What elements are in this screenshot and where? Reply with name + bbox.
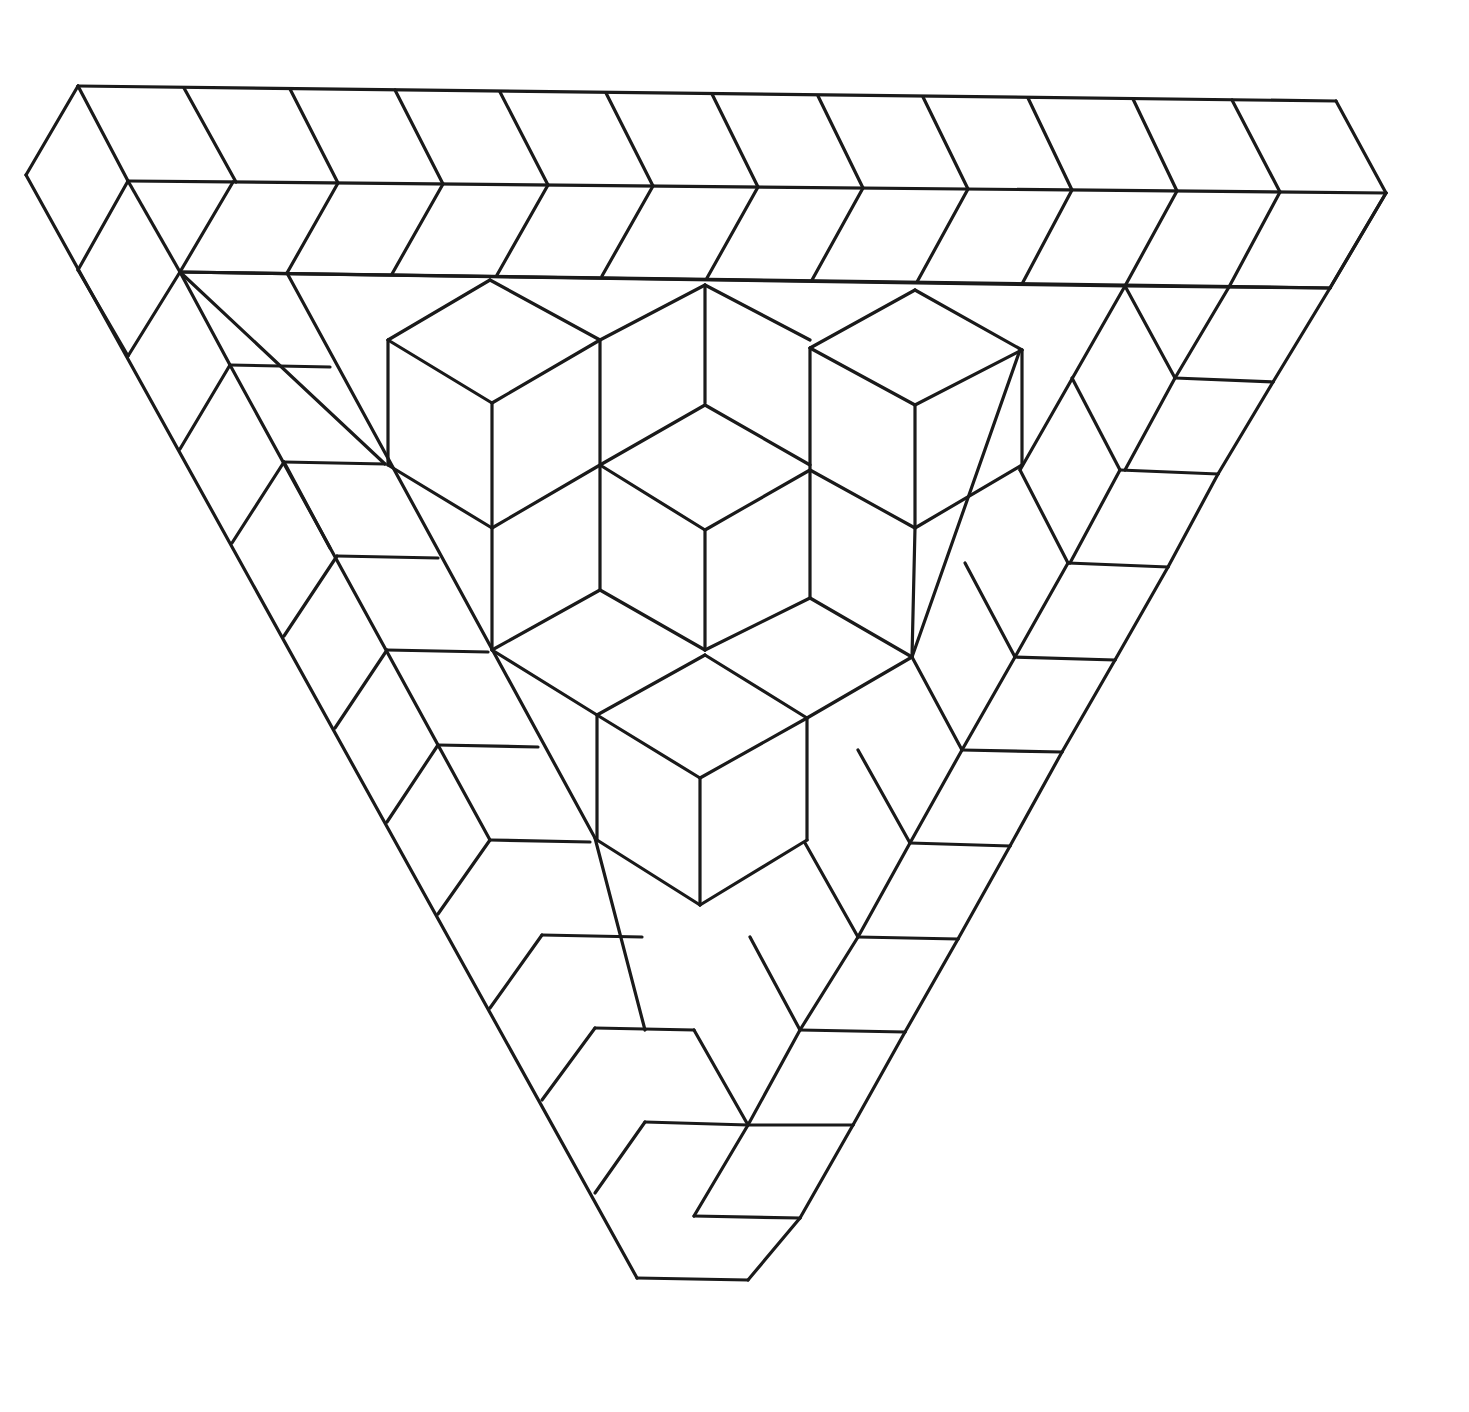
edge-line: [915, 465, 1022, 528]
edge-line: [700, 718, 807, 778]
edge-line: [1120, 470, 1218, 474]
edge-line: [78, 86, 1336, 101]
edge-line: [1020, 286, 1125, 470]
edge-line: [500, 92, 548, 185]
edge-line: [388, 465, 492, 528]
edge-line: [128, 272, 180, 356]
edge-line: [492, 650, 597, 715]
edge-line: [597, 655, 705, 715]
edge-line: [705, 285, 810, 340]
edge-line: [1133, 99, 1177, 191]
edge-line: [1336, 101, 1386, 193]
edge-line: [1062, 660, 1115, 752]
edge-line: [705, 598, 810, 650]
edge-line: [1125, 286, 1175, 378]
edge-line: [180, 365, 230, 449]
edge-line: [810, 290, 915, 348]
edge-line: [180, 182, 233, 272]
edge-line: [694, 1125, 748, 1216]
edge-line: [965, 563, 1015, 657]
edge-line: [858, 937, 958, 939]
edge-line: [542, 1028, 595, 1100]
edge-line: [853, 1032, 905, 1125]
edge-line: [490, 840, 590, 842]
edge-line: [290, 89, 338, 183]
edge-line: [337, 556, 438, 558]
edge-line: [1125, 191, 1177, 286]
edge-line: [645, 1122, 748, 1125]
edge-line: [810, 598, 912, 657]
edge-line: [807, 657, 912, 718]
edge-line: [497, 185, 548, 275]
edge-line: [335, 650, 387, 728]
edge-line: [1070, 470, 1120, 563]
edge-line: [1015, 563, 1068, 657]
edge-line: [958, 846, 1010, 939]
edge-line: [542, 935, 642, 937]
edge-line: [180, 272, 385, 464]
edge-line: [387, 650, 488, 652]
impossible-triangle-diagram: [0, 0, 1469, 1412]
edge-line: [705, 470, 810, 530]
edge-line: [712, 94, 758, 187]
edge-line: [910, 750, 962, 843]
edge-line: [180, 272, 1125, 286]
edge-line: [810, 470, 915, 528]
edge-line: [1015, 657, 1115, 660]
edge-line: [284, 462, 330, 548]
edge-line: [490, 935, 542, 1008]
edge-line: [128, 181, 180, 272]
edge-line: [805, 843, 858, 937]
edge-line: [1020, 470, 1068, 563]
edge-line: [230, 365, 490, 840]
edge-line: [705, 405, 810, 465]
edge-line: [915, 350, 1022, 405]
edge-line: [1330, 193, 1386, 288]
edge-line: [858, 843, 910, 937]
edge-line: [388, 280, 490, 340]
edge-line: [1028, 98, 1072, 190]
edge-line: [694, 1030, 748, 1125]
edge-line: [284, 462, 385, 464]
edge-line: [818, 96, 863, 188]
edge-line: [284, 556, 337, 636]
edge-line: [748, 1218, 800, 1280]
edge-line: [595, 1122, 645, 1193]
edge-line: [602, 186, 653, 276]
edge-line: [392, 184, 443, 274]
edge-line: [395, 90, 443, 184]
edge-line: [748, 1030, 800, 1125]
edge-line: [912, 528, 915, 657]
edge-line: [810, 348, 915, 405]
edge-line: [910, 843, 1010, 846]
edge-line: [917, 189, 968, 282]
edge-line: [1273, 288, 1330, 382]
edge-line: [912, 657, 962, 750]
edge-line: [606, 93, 653, 186]
edge-line: [1068, 563, 1168, 567]
edge-line: [962, 657, 1015, 750]
edge-line: [800, 937, 858, 1030]
edge-line: [912, 350, 1020, 657]
edge-line: [597, 840, 700, 905]
edge-line: [1125, 378, 1175, 470]
edge-line: [180, 272, 230, 365]
edge-line: [438, 745, 538, 747]
edge-line: [600, 285, 705, 340]
edge-line: [705, 655, 807, 718]
edge-line: [597, 715, 700, 778]
edge-line: [387, 745, 438, 822]
edge-line: [388, 340, 492, 403]
edge-line: [438, 840, 490, 914]
edge-line: [492, 590, 600, 650]
edge-line: [492, 340, 600, 403]
edge-line: [707, 187, 758, 278]
edge-line: [923, 97, 968, 189]
edge-line: [1072, 378, 1120, 470]
edge-line: [78, 86, 128, 181]
edge-line: [26, 86, 78, 175]
edge-line: [1175, 378, 1273, 382]
edge-line: [962, 750, 1062, 752]
edge-line: [78, 270, 128, 356]
edge-line: [1115, 567, 1168, 660]
